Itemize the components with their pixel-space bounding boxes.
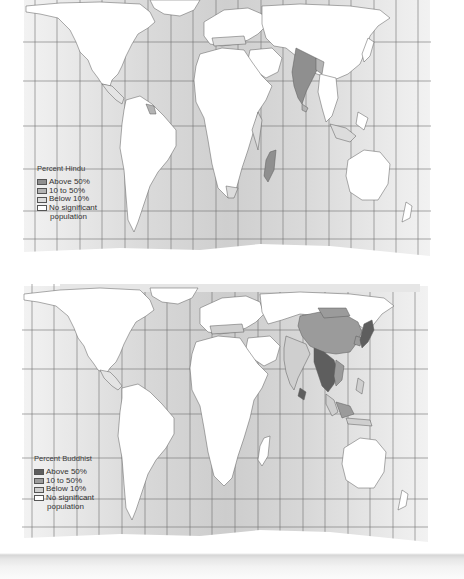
legend-swatch [34,495,44,501]
legend-swatch [37,188,47,194]
legend-item-continuation: population [37,213,97,222]
legend-swatch [37,179,47,185]
buddhist-legend: Percent Buddhist Above 50% 10 to 50% Bel… [34,455,94,512]
legend-swatch [34,478,44,484]
hindu-legend: Percent Hindu Above 50% 10 to 50% Below … [37,165,97,222]
legend-swatch [34,487,44,493]
hindu-map [0,0,464,262]
hindu-map-graphic [0,0,464,262]
legend-swatch [34,469,44,475]
page-bottom-shadow [0,553,464,579]
legend-swatch [37,197,47,203]
legend-title: Percent Buddhist [34,455,94,464]
legend-item-continuation: population [34,503,94,512]
legend-title: Percent Hindu [37,165,97,174]
legend-swatch [37,205,47,211]
